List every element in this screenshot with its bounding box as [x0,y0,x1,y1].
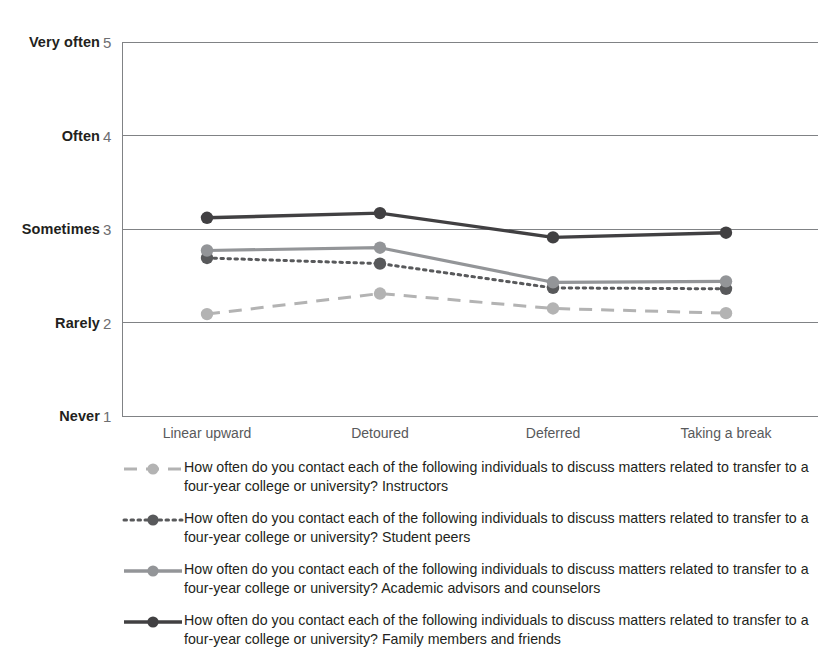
legend-line-sample [122,460,184,477]
legend-item: How often do you contact each of the fol… [122,560,821,598]
data-point-marker [720,275,732,287]
line-chart: Very often5Often4Sometimes3Rarely2Never1… [0,0,821,669]
data-point-marker [374,257,386,269]
data-point-marker [547,231,559,243]
legend-label: How often do you contact each of the fol… [184,509,814,547]
legend-item: How often do you contact each of the fol… [122,509,821,547]
legend-marker-dot [147,565,158,576]
x-axis-category-label: Linear upward [107,425,307,441]
data-point-marker [720,307,732,319]
series-line [207,258,726,289]
data-point-marker [374,287,386,299]
legend-line-sample [122,613,184,630]
data-point-marker [720,227,732,239]
legend-marker-dot [147,463,158,474]
legend-marker-dot [147,616,158,627]
legend-marker-dot [147,514,158,525]
data-point-marker [547,302,559,314]
data-point-marker [201,308,213,320]
legend-swatch [122,613,184,630]
series-line [207,294,726,315]
legend-item: How often do you contact each of the fol… [122,458,821,496]
legend-line-sample [122,562,184,579]
data-point-marker [201,244,213,256]
series-line [207,213,726,237]
legend-label: How often do you contact each of the fol… [184,560,814,598]
legend-line-sample [122,511,184,528]
chart-legend: How often do you contact each of the fol… [122,458,821,662]
legend-swatch [122,460,184,477]
legend-label: How often do you contact each of the fol… [184,611,814,649]
data-point-marker [201,212,213,224]
x-axis-category-label: Detoured [280,425,480,441]
data-point-marker [547,276,559,288]
x-axis-category-label: Deferred [453,425,653,441]
legend-item: How often do you contact each of the fol… [122,611,821,649]
data-point-marker [374,207,386,219]
data-point-marker [374,242,386,254]
legend-swatch [122,562,184,579]
legend-swatch [122,511,184,528]
x-axis-category-label: Taking a break [626,425,821,441]
legend-label: How often do you contact each of the fol… [184,458,814,496]
